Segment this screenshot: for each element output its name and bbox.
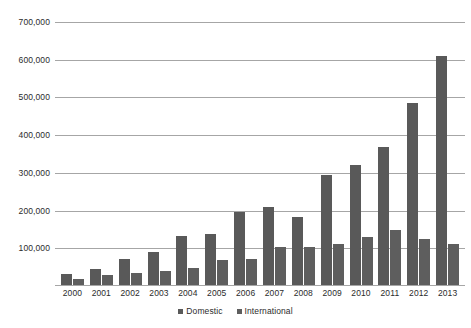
bar-international-2006[interactable] [246,259,257,285]
bar-group [173,22,202,285]
bar-group [347,22,376,285]
bar-domestic-2000[interactable] [61,274,72,285]
y-axis-tick-label: 600,000 [0,55,50,65]
x-axis-tick-label: 2004 [173,288,202,298]
bar-international-2005[interactable] [217,260,228,285]
square-marker-icon [237,309,242,314]
y-axis-tick-label: 200,000 [0,206,50,216]
bar-group [260,22,289,285]
x-axis-tick-label: 2005 [202,288,231,298]
bar-chart: 100,000200,000300,000400,000500,000600,0… [0,0,471,328]
bar-domestic-2011[interactable] [378,147,389,285]
y-axis: 100,000200,000300,000400,000500,000600,0… [0,22,50,286]
bar-group [202,22,231,285]
x-axis-labels: 2000200120022003200420052006200720082009… [55,288,465,298]
x-axis-tick-label: 2003 [145,288,174,298]
x-axis-tick-label: 2013 [433,288,462,298]
y-axis-tick-label: 700,000 [0,17,50,27]
bar-domestic-2001[interactable] [90,269,101,285]
bar-domestic-2005[interactable] [205,234,216,285]
bar-group [289,22,318,285]
y-axis-tick-label: 100,000 [0,243,50,253]
bar-domestic-2008[interactable] [292,217,303,285]
y-axis-tick-label: 400,000 [0,130,50,140]
bar-domestic-2004[interactable] [176,236,187,285]
bar-domestic-2009[interactable] [321,175,332,286]
bar-domestic-2006[interactable] [234,212,245,285]
bar-group [318,22,347,285]
bar-group [87,22,116,285]
axis-baseline [55,285,465,286]
bar-domestic-2007[interactable] [263,207,274,285]
bar-international-2001[interactable] [102,275,113,285]
bar-international-2000[interactable] [73,279,84,285]
bar-group [116,22,145,285]
legend-item-international[interactable]: International [237,306,293,316]
plot-area [55,22,465,286]
y-axis-tick-label: 300,000 [0,168,50,178]
bars-layer [55,22,465,285]
bar-group [375,22,404,285]
y-axis-tick-label: 500,000 [0,92,50,102]
bar-domestic-2013[interactable] [436,56,447,285]
bar-domestic-2012[interactable] [407,103,418,285]
x-axis-tick-label: 2006 [231,288,260,298]
x-axis-tick-label: 2011 [375,288,404,298]
legend-label: Domestic [186,306,222,316]
legend-label: International [245,306,293,316]
x-axis-tick-label: 2007 [260,288,289,298]
bar-group [58,22,87,285]
x-axis-tick-label: 2010 [347,288,376,298]
bar-international-2013[interactable] [448,244,459,285]
bar-international-2007[interactable] [275,247,286,285]
x-axis-tick-label: 2001 [87,288,116,298]
bar-domestic-2010[interactable] [350,165,361,285]
bar-group [433,22,462,285]
x-axis-tick-label: 2012 [404,288,433,298]
bar-international-2010[interactable] [362,237,373,285]
bar-international-2009[interactable] [333,244,344,285]
bar-group [145,22,174,285]
bar-international-2004[interactable] [188,268,199,285]
bar-international-2002[interactable] [131,273,142,285]
x-axis-tick-label: 2002 [116,288,145,298]
bar-international-2008[interactable] [304,247,315,285]
bar-domestic-2002[interactable] [119,259,130,285]
chart-legend: DomesticInternational [0,306,471,316]
bar-group [231,22,260,285]
legend-item-domestic[interactable]: Domestic [178,306,222,316]
square-marker-icon [178,309,183,314]
x-axis-tick-label: 2009 [318,288,347,298]
bar-group [404,22,433,285]
x-axis-tick-label: 2000 [58,288,87,298]
x-axis-tick-label: 2008 [289,288,318,298]
bar-international-2012[interactable] [419,239,430,285]
bar-international-2011[interactable] [390,230,401,285]
bar-domestic-2003[interactable] [148,252,159,285]
bar-international-2003[interactable] [160,271,171,285]
